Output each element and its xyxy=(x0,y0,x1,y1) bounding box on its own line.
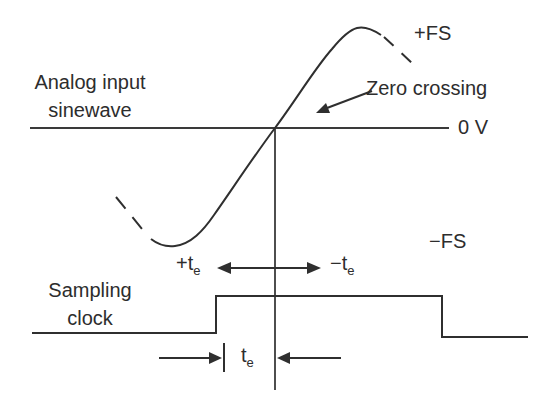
minus-fullscale-label: −FS xyxy=(429,230,466,252)
minus-te-sub: e xyxy=(347,263,354,278)
analog-input-label-line2: sinewave xyxy=(48,99,131,121)
sinewave-dashed-lower xyxy=(116,197,147,235)
sampling-clock-signal-label: Sampling clock xyxy=(28,276,152,332)
aperture-jitter-diagram: Analog input sinewave +FS Zero crossing … xyxy=(0,0,550,406)
plus-te-label: +te xyxy=(176,252,200,274)
sampling-clock-label-line1: Sampling xyxy=(48,279,131,301)
zero-crossing-arrowhead-icon xyxy=(316,103,330,113)
zero-crossing-label: Zero crossing xyxy=(366,77,487,99)
diagram-line-art xyxy=(0,0,550,406)
jitter-right-arrowhead-icon xyxy=(307,262,321,274)
te-right-arrowhead-icon xyxy=(209,352,222,364)
te-label: te xyxy=(241,344,254,366)
jitter-left-arrowhead-icon xyxy=(217,262,231,274)
minus-te-main: −t xyxy=(330,252,347,274)
analog-input-signal-label: Analog input sinewave xyxy=(28,68,152,124)
plus-te-sub: e xyxy=(193,263,200,278)
sinewave-dashed-upper xyxy=(384,37,412,63)
te-sub: e xyxy=(247,355,254,370)
sampling-clock-label-line2: clock xyxy=(67,307,113,329)
zero-volt-label: 0 V xyxy=(458,116,488,138)
sinewave-curve xyxy=(151,27,381,246)
plus-fullscale-label: +FS xyxy=(414,22,451,44)
minus-te-label: −te xyxy=(330,252,354,274)
plus-te-main: +t xyxy=(176,252,193,274)
analog-input-label-line1: Analog input xyxy=(34,71,145,93)
te-left-arrowhead-icon xyxy=(277,352,290,364)
